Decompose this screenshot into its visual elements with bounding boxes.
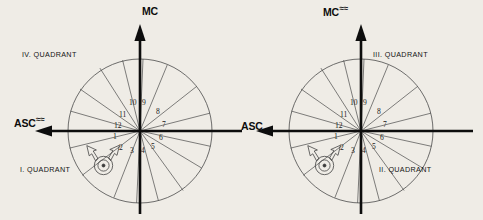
house-number-2-left: 2 [119,143,123,152]
house-number-12-right: 12 [335,121,343,130]
quadrant-label-top-right: III. QUADRANT [373,50,428,59]
house-number-7-left: 7 [162,120,166,129]
house-number-5-right: 5 [372,142,376,151]
mc-label-right: MC≈≈ [323,5,348,18]
house-number-10-right: 10 [350,98,358,107]
house-number-5-left: 5 [151,142,155,151]
quadrant-label-bottom-right: II. QUADRANT [379,165,432,174]
house-number-11-right: 11 [340,110,347,119]
mc-label-text-left: MC [142,5,158,17]
house-wheel-chart-left: MC ASC≈≈ IV. QUADRANT I. QUADRANT 12 11 … [0,0,242,220]
asc-axis-right [256,125,473,136]
mc-axis-left [134,24,145,214]
house-number-11-left: 11 [119,110,126,119]
asc-label-text-right: ASC [241,120,263,132]
house-number-4-right: 4 [362,146,366,155]
asc-label-left: ASC≈≈ [14,116,44,129]
wheel-svg-right [241,0,483,220]
quadrant-label-bottom-left: I. QUADRANT [20,165,70,174]
house-number-1-left: 1 [113,132,117,141]
house-number-8-right: 8 [377,107,381,116]
page-frame: MC ASC≈≈ IV. QUADRANT I. QUADRANT 12 11 … [0,0,483,220]
house-number-12-left: 12 [114,121,122,130]
house-number-7-right: 7 [383,120,387,129]
asc-label-right: ASC [241,120,263,132]
house-number-4-left: 4 [141,146,145,155]
asc-label-text-left: ASC [14,117,36,129]
quadrant-label-top-left: IV. QUADRANT [22,50,77,59]
house-number-8-left: 8 [156,107,160,116]
house-number-3-right: 3 [351,146,355,155]
house-number-3-left: 3 [130,146,134,155]
house-number-9-right: 9 [363,98,367,107]
house-number-1-right: 1 [334,132,338,141]
house-number-10-left: 10 [129,98,137,107]
mc-glyph-right: ≈≈ [339,5,347,13]
mars-glyph-right [308,145,341,175]
mc-label-text-right: MC [323,6,339,18]
mc-label-left: MC [142,5,158,17]
house-wheel-chart-right: MC≈≈ ASC III. QUADRANT II. QUADRANT 12 1… [241,0,483,220]
house-number-6-left: 6 [159,133,163,142]
mars-glyph-left [87,145,120,175]
house-number-6-right: 6 [380,133,384,142]
mc-axis-right [355,24,366,214]
asc-glyph-left: ≈≈ [36,116,44,124]
house-number-9-left: 9 [142,98,146,107]
house-number-2-right: 2 [340,143,344,152]
